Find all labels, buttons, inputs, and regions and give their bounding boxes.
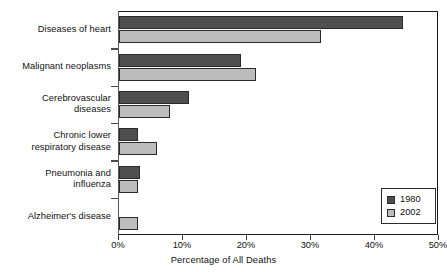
x-axis-tick-label: 10% xyxy=(173,240,192,250)
bar-1980-3 xyxy=(119,128,138,141)
x-axis-tick-label: 20% xyxy=(237,240,256,250)
category-separator-tick xyxy=(111,86,118,87)
category-label: Alzheimer's disease xyxy=(28,211,111,222)
bar-1980-4 xyxy=(119,166,140,179)
bar-1980-1 xyxy=(119,54,241,67)
bar-2002-5 xyxy=(119,217,138,230)
x-axis-title: Percentage of All Deaths xyxy=(0,254,447,265)
category-row: Alzheimer's disease xyxy=(0,198,447,235)
x-axis-tick-label: 0% xyxy=(111,240,124,250)
chart-legend: 1980 2002 xyxy=(381,188,436,224)
legend-swatch-1980-icon xyxy=(387,196,395,204)
bar-2002-0 xyxy=(119,30,321,43)
legend-label-1980: 1980 xyxy=(400,194,421,205)
category-label: Diseases of heart xyxy=(38,24,111,35)
x-axis-tick-label: 40% xyxy=(365,240,384,250)
category-separator-tick xyxy=(111,48,118,49)
category-row: Chronic lower respiratory disease xyxy=(0,123,447,160)
category-row: Pneumonia and influenza xyxy=(0,160,447,197)
category-separator-tick xyxy=(111,160,118,161)
category-separator-tick xyxy=(111,123,118,124)
category-row: Cerebrovascular diseases xyxy=(0,86,447,123)
x-axis-tick-label: 30% xyxy=(301,240,320,250)
bar-chart: Diseases of heartMalignant neoplasmsCere… xyxy=(0,0,447,272)
bar-1980-2 xyxy=(119,91,189,104)
legend-label-2002: 2002 xyxy=(400,207,421,218)
bar-2002-1 xyxy=(119,68,256,81)
category-separator-tick xyxy=(111,198,118,199)
legend-item-1980[interactable]: 1980 xyxy=(387,193,430,206)
bar-2002-3 xyxy=(119,142,157,155)
bar-2002-4 xyxy=(119,180,138,193)
bar-1980-0 xyxy=(119,16,403,29)
category-label: Chronic lower respiratory disease xyxy=(32,130,112,153)
legend-item-2002[interactable]: 2002 xyxy=(387,206,430,219)
bar-2002-2 xyxy=(119,105,170,118)
category-label: Malignant neoplasms xyxy=(22,61,111,72)
category-label: Cerebrovascular diseases xyxy=(42,93,111,116)
x-axis-tick-label: 50% xyxy=(429,240,447,250)
legend-swatch-2002-icon xyxy=(387,209,395,217)
category-label: Pneumonia and influenza xyxy=(45,168,111,191)
